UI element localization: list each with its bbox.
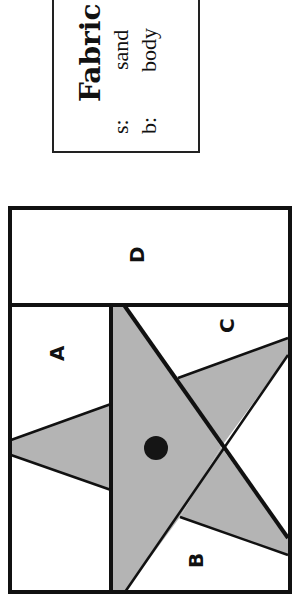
region-label-a: A [45,345,69,361]
region-label-c: C [215,318,239,333]
region-label-b: B [184,553,208,568]
quilt-block-diagram: A B C D [0,0,308,601]
center-dot [144,436,168,460]
region-label-d: D [125,246,149,263]
